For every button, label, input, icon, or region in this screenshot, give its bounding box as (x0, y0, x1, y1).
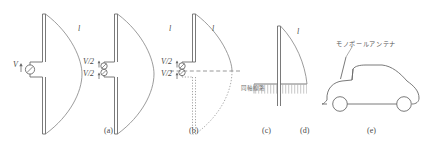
antenna-figure: l V l V/2 V/2 l V/2 V/2 l 同軸線路 モノポールアンテナ… (0, 0, 435, 148)
caption-a: (a) (104, 126, 113, 135)
panel-c-length-label: l (212, 24, 214, 33)
panel-d-graphic (254, 26, 307, 106)
coaxial-line-label: 同軸線路 (241, 84, 265, 92)
caption-d: (d) (300, 126, 309, 135)
panel-a-voltage-label: V (13, 60, 18, 69)
caption-e: (e) (367, 126, 376, 135)
panel-c-upper-source-label: V/2 (161, 57, 172, 66)
panel-b-length-label: l (169, 24, 171, 33)
panel-e-graphic (322, 47, 419, 111)
panel-a-graphic (19, 14, 82, 134)
panel-b-graphic (98, 14, 154, 134)
panel-a-length-label: l (78, 24, 80, 33)
panel-b-upper-source-label: V/2 (83, 57, 94, 66)
panel-d-length-label: l (297, 27, 299, 36)
panel-b-lower-source-label: V/2 (83, 69, 94, 78)
monopole-antenna-label: モノポールアンテナ (336, 38, 396, 48)
caption-c: (c) (262, 126, 271, 135)
caption-b: (b) (189, 126, 198, 135)
panel-c-lower-source-label: V/2 (161, 69, 172, 78)
panel-c-graphic (170, 14, 242, 134)
